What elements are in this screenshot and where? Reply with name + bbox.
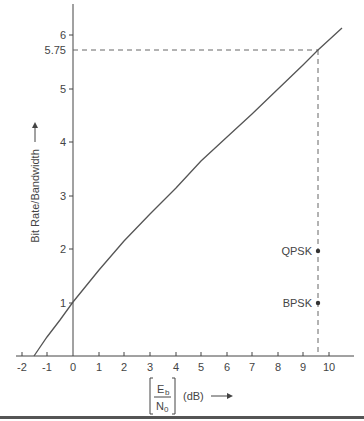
x-tick-labels: -2 -1 0 1 2 3 4 5 6 7 8 9 10 xyxy=(17,361,335,373)
svg-text:7: 7 xyxy=(249,361,255,373)
svg-text:2: 2 xyxy=(121,361,127,373)
arrow-up-icon xyxy=(32,122,38,128)
chart: -2 -1 0 1 2 3 4 5 6 7 8 9 10 1 2 3 4 5 5… xyxy=(0,0,364,421)
svg-text:5: 5 xyxy=(60,83,66,95)
svg-text:3: 3 xyxy=(60,190,66,202)
svg-text:N: N xyxy=(156,400,164,412)
svg-text:4: 4 xyxy=(60,136,66,148)
bottom-rule xyxy=(0,416,364,419)
svg-text:3: 3 xyxy=(147,361,153,373)
svg-text:(dB): (dB) xyxy=(183,390,204,402)
x-ticks xyxy=(22,352,329,356)
svg-text:0: 0 xyxy=(164,405,169,414)
y-tick-labels: 1 2 3 4 5 5.75 6 xyxy=(45,29,66,309)
y-ticks xyxy=(69,35,73,303)
svg-text:1: 1 xyxy=(96,361,102,373)
svg-text:5: 5 xyxy=(198,361,204,373)
svg-text:4: 4 xyxy=(173,361,179,373)
svg-text:8: 8 xyxy=(275,361,281,373)
bpsk-point xyxy=(316,301,320,305)
svg-text:6: 6 xyxy=(224,361,230,373)
bpsk-label: BPSK xyxy=(283,297,313,309)
x-axis-label: E b N 0 (dB) xyxy=(150,378,233,414)
qpsk-point xyxy=(316,249,320,253)
arrow-right-icon xyxy=(227,393,233,399)
svg-text:b: b xyxy=(165,388,170,397)
svg-text:0: 0 xyxy=(70,361,76,373)
y-axis-label: Bit Rate/Bandwidth xyxy=(29,141,41,251)
svg-text:6: 6 xyxy=(60,29,66,41)
svg-text:1: 1 xyxy=(60,297,66,309)
svg-text:E: E xyxy=(157,383,164,395)
svg-text:9: 9 xyxy=(300,361,306,373)
svg-text:-2: -2 xyxy=(17,361,27,373)
svg-text:5.75: 5.75 xyxy=(45,44,66,56)
svg-text:-1: -1 xyxy=(42,361,52,373)
svg-text:10: 10 xyxy=(323,361,335,373)
svg-text:2: 2 xyxy=(60,243,66,255)
qpsk-label: QPSK xyxy=(281,245,312,257)
